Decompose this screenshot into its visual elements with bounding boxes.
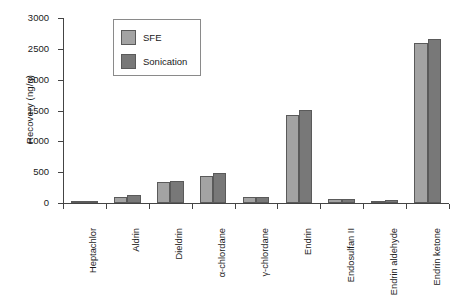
bar-sonication bbox=[213, 173, 226, 203]
x-axis-tick bbox=[449, 204, 450, 209]
y-axis-tick-label: 2500 bbox=[0, 43, 49, 54]
y-axis-tick-label: 3000 bbox=[0, 12, 49, 23]
legend-swatch-icon bbox=[121, 54, 136, 69]
y-axis-tick-label: 0 bbox=[0, 197, 49, 208]
y-axis-tick bbox=[58, 18, 63, 19]
bar-sonication bbox=[127, 195, 140, 203]
legend-item: Sonication bbox=[121, 53, 187, 69]
chart-figure: Recovery (ng/g) 050010001500200025003000… bbox=[0, 0, 458, 299]
bar-sfe bbox=[328, 199, 341, 203]
y-axis-line bbox=[63, 18, 64, 204]
bar-group bbox=[71, 18, 98, 203]
bar-sonication bbox=[428, 39, 441, 203]
x-axis-label: Endosulfan II bbox=[346, 228, 356, 282]
x-axis-label: Heptachlor bbox=[88, 228, 98, 273]
legend-label: SFE bbox=[143, 32, 161, 43]
bar-sfe bbox=[286, 115, 299, 203]
x-axis-tick bbox=[149, 204, 150, 209]
bar-sfe bbox=[243, 197, 256, 203]
x-axis-tick bbox=[192, 204, 193, 209]
bar-sfe bbox=[71, 201, 84, 203]
bar-group bbox=[200, 18, 227, 203]
y-axis-tick bbox=[58, 49, 63, 50]
x-axis-label: Dieldrin bbox=[174, 228, 184, 260]
legend-item: SFE bbox=[121, 29, 161, 45]
bar-sfe bbox=[414, 43, 427, 203]
x-axis-label: γ-chlordane bbox=[260, 228, 270, 277]
x-axis-label: α-chlordane bbox=[217, 228, 227, 277]
bar-sonication bbox=[170, 181, 183, 203]
bar-sonication bbox=[256, 197, 269, 203]
y-axis-tick-label: 1000 bbox=[0, 135, 49, 146]
x-axis-tick bbox=[63, 204, 64, 209]
bar-sonication bbox=[385, 200, 398, 203]
y-axis-tick bbox=[58, 80, 63, 81]
chart-legend: SFESonication bbox=[113, 19, 201, 76]
y-axis-tick bbox=[58, 141, 63, 142]
x-axis-line bbox=[63, 203, 449, 204]
bar-sfe bbox=[371, 201, 384, 203]
x-axis-label: Endrin aldehyde bbox=[389, 228, 399, 295]
y-axis-tick bbox=[58, 111, 63, 112]
bar-group bbox=[243, 18, 270, 203]
x-axis-tick bbox=[106, 204, 107, 209]
x-axis-tick bbox=[235, 204, 236, 209]
bar-group bbox=[328, 18, 355, 203]
bar-sfe bbox=[114, 197, 127, 203]
x-axis-tick bbox=[406, 204, 407, 209]
y-axis-tick-label: 1500 bbox=[0, 105, 49, 116]
x-axis-label: Aldrin bbox=[131, 228, 141, 252]
bar-sonication bbox=[84, 201, 97, 203]
x-axis-label: Endrin ketone bbox=[432, 228, 442, 285]
bar-group bbox=[286, 18, 313, 203]
x-axis-tick bbox=[320, 204, 321, 209]
bar-sfe bbox=[200, 176, 213, 203]
bar-sonication bbox=[342, 199, 355, 203]
x-axis-label: Endrin bbox=[303, 228, 313, 255]
x-axis-tick bbox=[277, 204, 278, 209]
bar-group bbox=[414, 18, 441, 203]
bar-group bbox=[371, 18, 398, 203]
x-axis-tick bbox=[363, 204, 364, 209]
y-axis-tick-label: 500 bbox=[0, 166, 49, 177]
y-axis-tick-label: 2000 bbox=[0, 74, 49, 85]
y-axis-tick bbox=[58, 172, 63, 173]
bar-sonication bbox=[299, 110, 312, 203]
bar-sfe bbox=[157, 182, 170, 203]
legend-label: Sonication bbox=[143, 56, 187, 67]
legend-swatch-icon bbox=[121, 30, 136, 45]
